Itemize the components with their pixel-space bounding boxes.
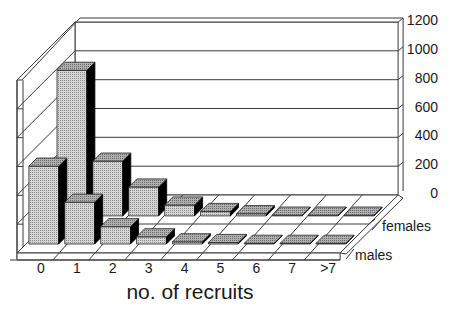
male-bar-front [29, 166, 59, 244]
x-tick-label: 6 [252, 260, 260, 276]
x-axis-title: no. of recruits [0, 280, 380, 304]
y-tick-label: 1200 [407, 12, 438, 28]
y-tick-label: 800 [415, 70, 439, 86]
y-tick-label: 0 [430, 185, 438, 201]
female-bar [165, 197, 203, 216]
x-tick-label: 0 [37, 260, 45, 276]
y-axis: 020040060080010001200 [407, 12, 438, 201]
male-bar-front [65, 202, 95, 244]
gridline-edge [398, 133, 403, 137]
floor-front-edge [17, 253, 340, 260]
male-bar [137, 229, 175, 244]
x-tick-label: 7 [288, 260, 296, 276]
male-bar [101, 219, 139, 244]
series-label-males: males [355, 247, 392, 263]
gridline-edge [398, 76, 403, 80]
x-tick-label: >7 [320, 260, 336, 276]
gridline-edge [398, 105, 403, 109]
chart-canvas: 020040060080010001200 01234567>7 females… [0, 0, 453, 314]
female-bar-front [129, 187, 159, 216]
y-tick-label: 600 [415, 99, 439, 115]
x-axis: 01234567>7 [37, 260, 336, 276]
series-label-females: females [382, 218, 431, 234]
x-tick-label: 2 [109, 260, 117, 276]
male-bar-front [101, 227, 131, 244]
y-tick-label: 400 [415, 127, 439, 143]
x-tick-label: 4 [181, 260, 189, 276]
male-bar [29, 158, 67, 244]
female-bar [129, 179, 167, 216]
gridline-edge [398, 47, 403, 51]
female-bar-front [165, 205, 195, 216]
x-tick-label: 1 [73, 260, 81, 276]
y-tick-label: 200 [415, 156, 439, 172]
male-bar-front [137, 237, 167, 244]
y-tick-label: 1000 [407, 41, 438, 57]
recruits-3d-bar-chart: 020040060080010001200 01234567>7 females… [0, 0, 453, 314]
male-bar [65, 194, 103, 244]
female-bar-front [201, 212, 231, 216]
gridline-edge [398, 162, 403, 166]
x-tick-label: 5 [217, 260, 225, 276]
x-tick-label: 3 [145, 260, 153, 276]
